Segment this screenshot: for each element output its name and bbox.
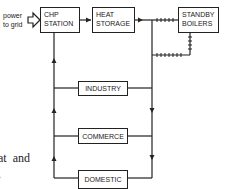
chp-station-node: CHP STATION xyxy=(40,7,80,33)
standby-boilers-node: STANDBY BOILERS xyxy=(178,7,219,33)
page-text-fragment: at and . xyxy=(0,150,30,182)
heat-storage-node: HEAT STORAGE xyxy=(92,7,135,33)
industry-node: INDUSTRY xyxy=(78,81,128,96)
commerce-node: COMMERCE xyxy=(78,128,128,144)
power-to-grid-label: power to grid xyxy=(3,12,22,29)
domestic-node: DOMESTIC xyxy=(78,170,128,189)
